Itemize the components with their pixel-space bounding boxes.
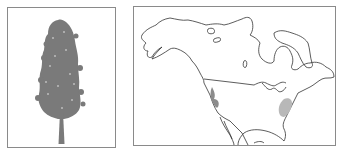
north-america-map: [134, 7, 335, 145]
eastern-range-area: [279, 98, 292, 117]
tree-illustration-panel: [7, 7, 116, 148]
range-map-panel: [133, 6, 336, 146]
tree-icon: [8, 8, 115, 147]
western-range-area: [211, 87, 219, 108]
